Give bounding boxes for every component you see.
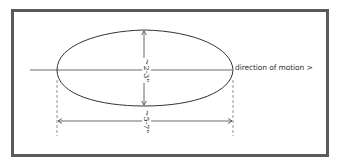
height-dimension-label: ~2-3" bbox=[142, 58, 151, 83]
direction-of-motion-label: direction of motion > bbox=[235, 63, 313, 72]
length-dimension-label: ~5-7" bbox=[142, 109, 151, 134]
ellipse-diagram bbox=[0, 0, 337, 166]
